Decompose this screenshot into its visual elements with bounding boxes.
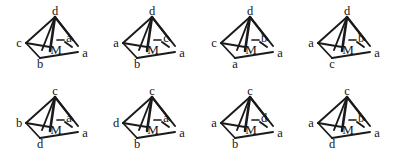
- ligand-left-label: c: [211, 37, 217, 50]
- ligand-apex-label: d: [247, 5, 253, 18]
- ligand-right-label: a: [374, 127, 380, 140]
- ligand-left-label: a: [308, 37, 314, 50]
- ligand-right-label: a: [82, 127, 88, 140]
- ligand-inner-label: b: [358, 112, 364, 125]
- ligand-left-label: c: [16, 37, 22, 50]
- ligand-apex-label: d: [52, 5, 58, 18]
- ligand-right-label: a: [179, 127, 185, 140]
- ligand-bottom-label: b: [232, 138, 238, 151]
- metal-center-label: M: [50, 124, 62, 137]
- metal-center-label: M: [342, 124, 354, 137]
- ligand-apex-label: d: [344, 5, 350, 18]
- ligand-left-label: a: [308, 117, 314, 130]
- ligand-apex-label: c: [52, 85, 58, 98]
- metal-center-label: M: [147, 44, 159, 57]
- ligand-apex-label: d: [149, 5, 155, 18]
- structure-1: d c b a a M: [8, 2, 108, 84]
- ligand-left-label: b: [16, 117, 22, 130]
- metal-center-label: M: [342, 44, 354, 57]
- ligand-right-label: a: [277, 47, 283, 60]
- ligand-left-label: a: [113, 37, 119, 50]
- ligand-inner-label: b: [261, 32, 267, 45]
- ligand-apex-label: c: [149, 85, 155, 98]
- metal-center-label: M: [245, 124, 257, 137]
- ligand-inner-label: d: [261, 112, 267, 125]
- ligand-inner-label: c: [163, 32, 169, 45]
- ligand-bottom-label: b: [134, 58, 140, 71]
- structure-grid: d c b a a M d a b a c M: [0, 0, 402, 164]
- ligand-right-label: a: [277, 127, 283, 140]
- metal-center-label: M: [245, 44, 257, 57]
- ligand-bottom-label: d: [37, 138, 43, 151]
- ligand-inner-label: a: [163, 112, 169, 125]
- ligand-bottom-label: d: [329, 138, 335, 151]
- metal-center-label: M: [147, 124, 159, 137]
- ligand-bottom-label: c: [329, 58, 335, 71]
- structure-5: c b d a a M: [8, 82, 108, 164]
- structure-7: c a b a d M: [203, 82, 303, 164]
- structure-6: c d b a a M: [105, 82, 205, 164]
- ligand-inner-label: b: [358, 32, 364, 45]
- structure-2: d a b a c M: [105, 2, 205, 84]
- structure-3: d c a a b M: [203, 2, 303, 84]
- ligand-bottom-label: a: [232, 58, 238, 71]
- ligand-right-label: a: [82, 47, 88, 60]
- ligand-bottom-label: b: [37, 58, 43, 71]
- ligand-apex-label: c: [344, 85, 350, 98]
- ligand-right-label: a: [179, 47, 185, 60]
- ligand-inner-label: a: [66, 112, 72, 125]
- ligand-apex-label: c: [247, 85, 253, 98]
- structure-8: c a d a b M: [300, 82, 400, 164]
- structure-4: d a c a b M: [300, 2, 400, 84]
- ligand-right-label: a: [374, 47, 380, 60]
- ligand-inner-label: a: [66, 32, 72, 45]
- ligand-left-label: a: [211, 117, 217, 130]
- ligand-bottom-label: b: [134, 138, 140, 151]
- ligand-left-label: d: [113, 117, 119, 130]
- metal-center-label: M: [50, 44, 62, 57]
